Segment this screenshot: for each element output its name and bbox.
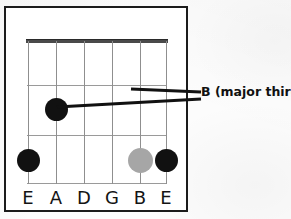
marker-a-string-fret2[interactable] — [45, 98, 68, 121]
string-line-3 — [112, 41, 113, 184]
string-label-5: E — [155, 187, 177, 208]
fret-line-1 — [27, 85, 167, 86]
page-background: EADGBE B (major third) — [0, 0, 291, 219]
string-label-2: D — [73, 187, 95, 208]
string-label-1: A — [45, 187, 67, 208]
diagram-frame: EADGBE — [4, 6, 188, 212]
string-label-0: E — [17, 187, 39, 208]
string-line-2 — [84, 41, 85, 184]
string-label-row: EADGBE — [27, 187, 167, 209]
marker-low-e-open[interactable] — [17, 149, 40, 172]
string-label-4: B — [129, 187, 151, 208]
fretboard — [27, 39, 167, 184]
marker-b-string[interactable] — [128, 148, 153, 173]
annotation-label: B (major third) — [201, 85, 291, 99]
fret-line-2 — [27, 135, 167, 136]
marker-high-e-string[interactable] — [155, 149, 178, 172]
fret-line-3 — [27, 183, 167, 184]
string-label-3: G — [101, 187, 123, 208]
nut-line — [26, 39, 168, 43]
